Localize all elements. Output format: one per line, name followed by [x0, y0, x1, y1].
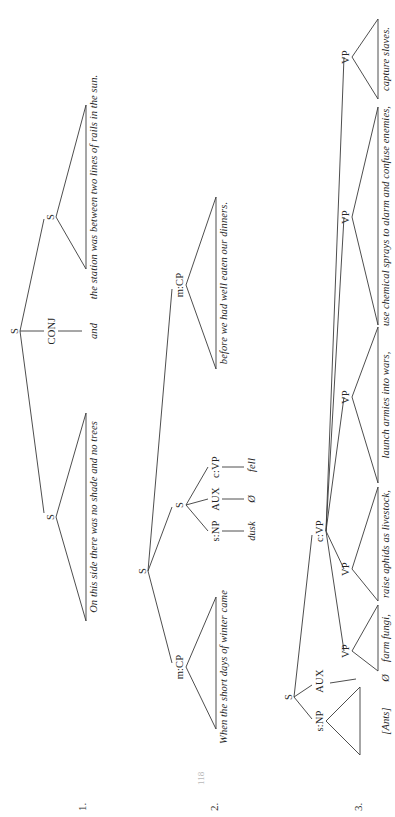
- tree-3-leaf-vp-2: raise aphids as livestock,: [380, 490, 391, 598]
- tree-2-node-trailing-m-cp: m:CP: [174, 273, 185, 298]
- tree-3-leaf-subject: [Ants]: [380, 707, 391, 734]
- page-number: 118: [196, 772, 206, 785]
- tree-1-node-root-s: S: [9, 328, 20, 334]
- tree-1-leaf-left-clause: On this side there was no shade and no t…: [88, 421, 99, 613]
- tree-2-leaf-aux: Ø: [246, 495, 257, 503]
- tree-1-leaf-right-clause: the station was between two lines of rai…: [88, 75, 99, 299]
- tree-3-node-root-s: S: [283, 694, 294, 700]
- tree-2-leaf-trailing-cp: before we had well eaten our dinners.: [218, 202, 229, 364]
- tree-2-node-s-np: s:NP: [210, 520, 221, 541]
- tree-3-node-vp-2: VP: [340, 562, 351, 576]
- tree-2-node-root-s: S: [137, 568, 148, 574]
- tree-3-node-vp-1: VP: [340, 644, 351, 658]
- tree-2-leaf-subject: dusk: [246, 521, 257, 541]
- tree-1-node-conj: CONJ: [46, 317, 57, 344]
- tree-3-leaf-vp-1: farm fungi,: [380, 614, 391, 662]
- tree-2-node-aux: AUX: [210, 487, 221, 510]
- tree-2-node-m-cp: m:CP: [174, 655, 185, 680]
- tree-3-node-vp-4: VP: [340, 210, 351, 224]
- tree-3-node-aux: AUX: [314, 669, 325, 692]
- tree-3-leaf-vp-4: use chemical sprays to alarm and confuse…: [380, 106, 391, 326]
- tree-1-node-left-s: S: [45, 514, 56, 520]
- tree-3-node-vp-5: VP: [340, 50, 351, 64]
- document-page: 1. S S CONJ S On this side there was no …: [0, 0, 395, 817]
- tree-3-leaf-vp-5: capture slaves.: [380, 27, 391, 91]
- tree-3-leaf-vp-3: launch armies into wars,: [380, 352, 391, 459]
- tree-3-leaf-aux: Ø: [380, 674, 391, 682]
- tree-1-leaf-conjunction: and: [88, 323, 99, 339]
- tree-1-node-right-s: S: [45, 214, 56, 220]
- tree-2-leaf-m-cp-text: When the short days of winter came: [218, 590, 229, 744]
- tree-1-number: 1.: [76, 803, 88, 811]
- tree-3-node-vp-3: VP: [340, 390, 351, 404]
- tree-2-number: 2.: [208, 803, 220, 811]
- page-rotator: 1. S S CONJ S On this side there was no …: [0, 0, 395, 817]
- tree-2-node-c-vp: c:VP: [210, 456, 221, 478]
- tree-2-node-inner-s: S: [174, 502, 185, 508]
- tree-3-node-c-vp: c:VP: [314, 520, 325, 542]
- tree-connector-lines: [0, 0, 395, 817]
- tree-3-node-s-np: s:NP: [314, 710, 325, 731]
- tree-3-number: 3.: [352, 803, 364, 811]
- tree-2-leaf-verb: fell: [246, 458, 257, 472]
